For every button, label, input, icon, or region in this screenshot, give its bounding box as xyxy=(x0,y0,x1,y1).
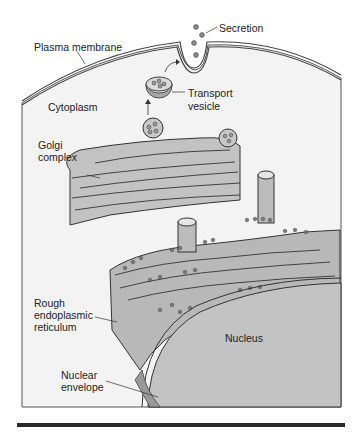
label-golgi-line2: complex xyxy=(38,151,77,163)
label-transport-vesicle-line2: vesicle xyxy=(188,100,220,112)
label-cytoplasm: Cytoplasm xyxy=(48,101,98,113)
label-plasma-membrane: Plasma membrane xyxy=(34,41,122,53)
label-rer-line2: endoplasmic xyxy=(34,309,93,321)
label-rer-line3: reticulum xyxy=(34,321,77,333)
label-nuclear-envelope-line1: Nuclear xyxy=(61,369,97,381)
cell-diagram xyxy=(0,0,360,439)
label-transport-vesicle-line1: Transport xyxy=(188,87,233,99)
label-golgi-line1: Golgi xyxy=(38,139,63,151)
label-secretion: Secretion xyxy=(219,22,263,34)
footer-bar xyxy=(17,423,345,427)
label-nuclear-envelope-line2: envelope xyxy=(61,381,104,393)
transport-vesicle xyxy=(146,77,172,98)
secretion-granules xyxy=(192,25,205,58)
label-rer-line1: Rough xyxy=(34,297,65,309)
label-nucleus: Nucleus xyxy=(225,332,263,344)
